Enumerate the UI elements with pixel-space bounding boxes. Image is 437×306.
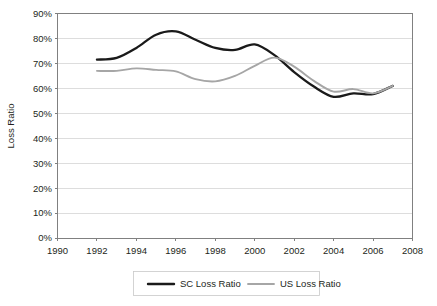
x-tick-label: 1998 (205, 245, 226, 256)
y-tick-label: 10% (33, 207, 53, 218)
x-tick-label: 1992 (86, 245, 107, 256)
y-axis-title: Loss Ratio (5, 104, 16, 149)
series-line-sc-loss-ratio (97, 31, 393, 97)
loss-ratio-line-chart: 0%10%20%30%40%50%60%70%80%90% 1990199219… (0, 0, 437, 306)
legend: SC Loss RatioUS Loss Ratio (134, 272, 341, 296)
x-tick-label: 1994 (126, 245, 147, 256)
x-tick-label: 2006 (362, 245, 383, 256)
plot-area-frame (58, 14, 413, 239)
x-tick-label: 2000 (244, 245, 265, 256)
x-tick-label: 2004 (323, 245, 344, 256)
x-tick-label: 1996 (165, 245, 186, 256)
y-tick-label: 70% (33, 58, 53, 69)
x-axis-tick-labels: 1990199219941996199820002002200420062008 (47, 245, 423, 256)
y-tick-label: 80% (33, 33, 53, 44)
x-tick-label: 1990 (47, 245, 68, 256)
gridlines (58, 38, 413, 213)
y-tick-label: 90% (33, 8, 53, 19)
y-tick-label: 60% (33, 83, 53, 94)
x-tick-label: 2002 (284, 245, 305, 256)
y-tick-label: 40% (33, 133, 53, 144)
data-series-group (97, 31, 393, 97)
y-tick-label: 0% (38, 232, 52, 243)
y-axis-tick-labels: 0%10%20%30%40%50%60%70%80%90% (33, 8, 53, 244)
y-tick-label: 50% (33, 108, 53, 119)
y-tick-label: 30% (33, 158, 53, 169)
y-tick-label: 20% (33, 183, 53, 194)
x-tick-label: 2008 (402, 245, 423, 256)
legend-label: US Loss Ratio (280, 278, 341, 289)
legend-label: SC Loss Ratio (180, 278, 241, 289)
chart-container: 0%10%20%30%40%50%60%70%80%90% 1990199219… (0, 0, 437, 306)
